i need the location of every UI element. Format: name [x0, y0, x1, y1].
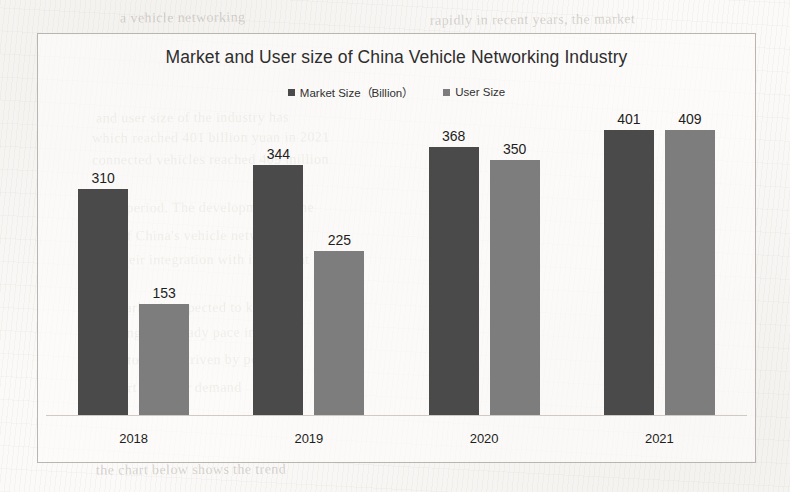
chart-legend: Market Size（Billion） User Size: [38, 84, 755, 100]
legend-item-user-size[interactable]: User Size: [443, 86, 505, 98]
bar-value-label: 344: [267, 147, 290, 161]
bar-user-size-2018[interactable]: 153: [139, 112, 189, 415]
bleed-through-line: a vehicle networking: [120, 9, 246, 26]
x-axis-tick-2018: 2018: [46, 431, 221, 446]
x-axis-tick-2019: 2019: [221, 431, 396, 446]
legend-label-market-size: Market Size（Billion）: [300, 84, 413, 100]
bar-rect[interactable]: [429, 147, 479, 415]
bar-group-2020: 368350: [397, 112, 572, 415]
bar-market-size-2018[interactable]: 310: [78, 112, 128, 415]
bar-rect[interactable]: [139, 304, 189, 415]
bar-value-label: 310: [91, 171, 114, 185]
bar-market-size-2021[interactable]: 401: [604, 112, 654, 415]
legend-swatch-market-size: [288, 89, 295, 96]
bar-value-label: 225: [328, 233, 351, 247]
bar-market-size-2019[interactable]: 344: [253, 112, 303, 415]
bar-rect[interactable]: [78, 189, 128, 415]
bar-rect[interactable]: [604, 130, 654, 415]
bleed-through-line: rapidly in recent years, the market: [430, 11, 635, 28]
legend-item-market-size[interactable]: Market Size（Billion）: [288, 84, 413, 100]
bar-rect[interactable]: [665, 130, 715, 415]
bar-value-label: 350: [503, 142, 526, 156]
bar-value-label: 368: [442, 129, 465, 143]
bar-groups: 310153344225368350401409: [46, 112, 747, 415]
bar-group-2019: 344225: [221, 112, 396, 415]
bar-value-label: 401: [617, 112, 640, 126]
chart-title: Market and User size of China Vehicle Ne…: [38, 47, 755, 68]
bar-user-size-2019[interactable]: 225: [314, 112, 364, 415]
bar-user-size-2020[interactable]: 350: [490, 112, 540, 415]
bleed-through-line: the chart below shows the trend: [96, 462, 286, 479]
bar-rect[interactable]: [490, 160, 540, 415]
bar-rect[interactable]: [314, 251, 364, 415]
legend-label-user-size: User Size: [455, 86, 505, 98]
bar-value-label: 153: [152, 286, 175, 300]
bar-rect[interactable]: [253, 165, 303, 415]
x-axis-tick-2021: 2021: [572, 431, 747, 446]
plot-area: 310153344225368350401409 201820192020202…: [46, 112, 747, 454]
x-axis-line: [46, 415, 747, 416]
bar-value-label: 409: [678, 112, 701, 126]
x-axis-tick-2020: 2020: [397, 431, 572, 446]
bar-market-size-2020[interactable]: 368: [429, 112, 479, 415]
bar-group-2021: 401409: [572, 112, 747, 415]
bar-user-size-2021[interactable]: 409: [665, 112, 715, 415]
chart-figure: Market and User size of China Vehicle Ne…: [37, 33, 756, 463]
bar-group-2018: 310153: [46, 112, 221, 415]
legend-swatch-user-size: [443, 89, 450, 96]
x-axis-labels: 2018201920202021: [46, 431, 747, 446]
